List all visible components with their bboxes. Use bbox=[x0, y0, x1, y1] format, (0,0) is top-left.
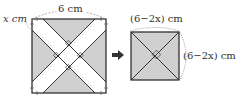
right-square-figure bbox=[130, 28, 186, 81]
left-square-figure bbox=[26, 11, 108, 96]
right-arrow-icon bbox=[112, 50, 124, 60]
top-length-label: (6−2x) cm bbox=[130, 13, 183, 24]
side-length-label: (6−2x) cm bbox=[183, 50, 236, 61]
diagram: 6 cm x cm (6−2x) cm (6−2x) cm bbox=[0, 0, 238, 99]
corner-label: x cm bbox=[3, 13, 27, 24]
width-label: 6 cm bbox=[58, 3, 83, 14]
